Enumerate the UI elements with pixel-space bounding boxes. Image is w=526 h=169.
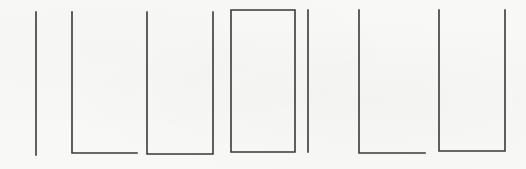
shapes-drawing [0, 0, 526, 169]
u-shape-1-shape [147, 12, 213, 154]
diagram-canvas [0, 0, 526, 169]
l-shape-1-shape [72, 12, 137, 153]
closed-box-shape [231, 10, 295, 152]
u-shape-2-shape [439, 10, 505, 151]
l-shape-2-shape [359, 10, 425, 153]
